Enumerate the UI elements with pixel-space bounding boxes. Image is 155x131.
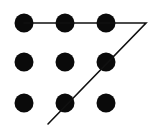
dot-grid: [15, 14, 116, 113]
dot-r3-c2: [56, 94, 75, 113]
nine-dots-diagram: [0, 0, 155, 131]
connecting-line: [24, 23, 146, 124]
dot-r2-c2: [56, 53, 75, 72]
dot-r3-c3: [97, 94, 116, 113]
dot-r2-c3: [97, 53, 116, 72]
dot-r2-c1: [15, 53, 34, 72]
dot-r3-c1: [15, 94, 34, 113]
